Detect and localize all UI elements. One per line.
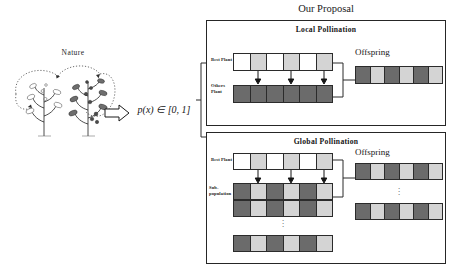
plants-illustration (8, 58, 138, 138)
local-others-plant-strip (233, 85, 333, 103)
offspring-cell (414, 204, 429, 219)
others-plant-cell (251, 86, 268, 102)
subpopulation-cell (251, 184, 268, 199)
offspring-cell (400, 164, 415, 179)
local-transfer-arrows-icon (233, 71, 333, 85)
local-pollination-box: Local Pollination Best Plant Others Plan… (206, 20, 446, 126)
subpopulation-cell (251, 236, 268, 251)
subpopulation-cell (251, 201, 268, 216)
global-pollination-box: Global Pollination Best Plant Sub- popul… (206, 132, 446, 264)
offspring-ellipsis: · · · (391, 187, 407, 197)
subpopulation-cell (267, 184, 284, 199)
subpopulation-cell (317, 184, 333, 199)
best-plant-cell (284, 54, 301, 70)
offspring-cell (371, 164, 386, 179)
probability-formula: p(x) ∈ [0, 1] (131, 104, 197, 115)
global-subpopulation-strip (233, 200, 333, 217)
local-offspring-strip (355, 66, 443, 84)
local-others-plant-label: Others Plant (211, 83, 225, 95)
subpopulation-cell (267, 201, 284, 216)
subpopulation-ellipsis: · · · (275, 219, 291, 229)
subpopulation-cell (300, 184, 317, 199)
subpopulation-cell (284, 184, 301, 199)
offspring-cell (429, 67, 443, 83)
offspring-cell (371, 67, 386, 83)
offspring-cell (356, 164, 371, 179)
nature-label: Nature (8, 48, 138, 57)
offspring-cell (414, 164, 429, 179)
subpopulation-cell (317, 201, 333, 216)
global-subpopulation-label: Sub- population (209, 185, 231, 197)
global-pollination-title: Global Pollination (207, 137, 445, 146)
others-plant-cell (234, 86, 251, 102)
local-pollination-title: Local Pollination (207, 25, 445, 34)
global-best-plant-strip (233, 153, 333, 170)
subpopulation-cell (284, 236, 301, 251)
offspring-cell (400, 204, 415, 219)
subpopulation-cell (234, 184, 251, 199)
others-plant-cell (317, 86, 333, 102)
others-plant-cell (300, 86, 317, 102)
global-offspring-label: Offspring (355, 147, 390, 157)
local-merge-connector (333, 59, 357, 101)
process-arrow-icon (104, 104, 130, 122)
global-subpopulation-strip (233, 183, 333, 200)
offspring-cell (429, 204, 443, 219)
global-transfer-arrows-icon (233, 170, 333, 184)
global-subpopulation-strip (233, 235, 333, 252)
local-best-plant-label: Best Plant (211, 57, 232, 63)
best-plant-cell (317, 54, 333, 70)
local-best-plant-strip (233, 53, 333, 71)
best-plant-cell (317, 154, 333, 169)
others-plant-cell (284, 86, 301, 102)
best-plant-cell (234, 154, 251, 169)
offspring-cell (356, 204, 371, 219)
subpopulation-cell (284, 201, 301, 216)
best-plant-cell (251, 54, 268, 70)
subpopulation-cell (267, 236, 284, 251)
local-offspring-label: Offspring (355, 47, 390, 57)
offspring-cell (385, 67, 400, 83)
best-plant-cell (300, 54, 317, 70)
offspring-cell (385, 204, 400, 219)
subpopulation-cell (300, 236, 317, 251)
nature-panel: Nature (8, 48, 138, 138)
global-offspring-strip (355, 163, 443, 180)
best-plant-cell (267, 54, 284, 70)
others-plant-cell (267, 86, 284, 102)
best-plant-cell (234, 54, 251, 70)
best-plant-cell (300, 154, 317, 169)
global-best-plant-label: Best Plant (211, 157, 232, 163)
subpopulation-cell (300, 201, 317, 216)
subpopulation-cell (317, 236, 333, 251)
page-title: Our Proposal (205, 3, 447, 14)
subpopulation-cell (234, 201, 251, 216)
offspring-cell (429, 164, 443, 179)
subpopulation-cell (234, 236, 251, 251)
offspring-cell (385, 164, 400, 179)
offspring-cell (356, 67, 371, 83)
best-plant-cell (284, 154, 301, 169)
global-merge-connector (333, 157, 357, 201)
offspring-cell (400, 67, 415, 83)
best-plant-cell (267, 154, 284, 169)
figure-canvas: Nature (0, 0, 450, 268)
best-plant-cell (251, 154, 268, 169)
offspring-cell (414, 67, 429, 83)
offspring-cell (371, 204, 386, 219)
global-offspring-strip (355, 203, 443, 220)
